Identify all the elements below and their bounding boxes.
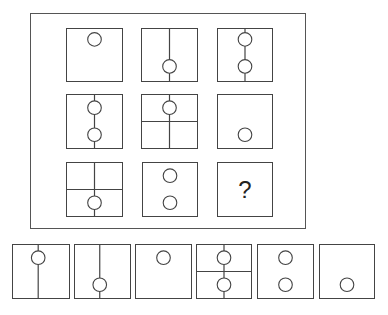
answer-option-6[interactable] — [319, 244, 375, 299]
circle-icon — [93, 278, 107, 292]
cell-figure — [13, 245, 69, 298]
answer-option-1[interactable] — [12, 244, 70, 299]
matrix-cell-r3c2 — [142, 162, 198, 217]
circle-icon — [217, 278, 231, 292]
circle-icon — [163, 60, 177, 74]
matrix-cell-r3c1 — [66, 162, 123, 217]
cell-figure — [320, 245, 374, 298]
cell-figure — [142, 29, 197, 81]
cell-figure — [75, 245, 130, 298]
cell-figure — [143, 163, 197, 216]
circle-icon — [163, 101, 177, 115]
circle-icon — [238, 60, 252, 74]
circle-icon — [163, 169, 177, 183]
matrix-cell-r2c2 — [141, 94, 198, 149]
matrix-cell-r2c3 — [217, 94, 273, 149]
question-mark: ? — [218, 163, 272, 216]
circle-icon — [238, 33, 252, 47]
cell-figure — [197, 245, 251, 298]
cell-figure — [142, 95, 197, 148]
circle-icon — [157, 251, 171, 265]
cell-figure — [218, 29, 272, 81]
circle-icon — [31, 251, 45, 265]
circle-icon — [88, 33, 102, 47]
matrix-cell-r2c1 — [66, 94, 123, 149]
circle-icon — [88, 128, 102, 142]
circle-icon — [238, 128, 252, 142]
circle-icon — [88, 196, 102, 210]
circle-icon — [340, 278, 354, 292]
circle-icon — [88, 101, 102, 115]
cell-figure — [136, 245, 191, 298]
matrix-cell-r1c1 — [66, 28, 123, 82]
matrix-cell-r1c2 — [141, 28, 198, 82]
answer-option-5[interactable] — [257, 244, 314, 299]
cell-figure — [67, 29, 122, 81]
cell-figure — [67, 95, 122, 148]
circle-icon — [279, 251, 293, 265]
cell-figure — [218, 95, 272, 148]
cell-figure — [258, 245, 313, 298]
circle-icon — [163, 196, 177, 210]
circle-icon — [217, 251, 231, 265]
cell-figure — [67, 163, 122, 216]
answer-option-3[interactable] — [135, 244, 192, 299]
matrix-cell-r1c3 — [217, 28, 273, 82]
answer-option-4[interactable] — [196, 244, 252, 299]
circle-icon — [279, 278, 293, 292]
matrix-cell-r3c3: ? — [217, 162, 273, 217]
answer-option-2[interactable] — [74, 244, 131, 299]
